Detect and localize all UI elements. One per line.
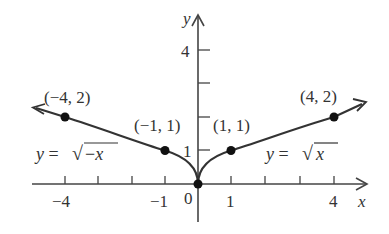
point-1-1 [227, 146, 236, 155]
eq-right-radicand: x [315, 144, 324, 164]
x-tick-label-4: 4 [329, 192, 338, 211]
eq-left-radicand: −x [85, 144, 103, 164]
eq-right-radical-icon: √ [302, 142, 313, 164]
eq-right-equals: = [274, 144, 289, 164]
point-neg1-1 [161, 146, 170, 155]
eq-left-y: y [34, 144, 44, 164]
svg-text:y =: y = [264, 144, 289, 164]
point-4-2 [330, 113, 339, 122]
y-axis-ticks [198, 50, 210, 150]
y-axis-label: y [181, 9, 191, 28]
point-label-neg4-2: (−4, 2) [44, 88, 90, 107]
point-label-neg1-1: (−1, 1) [134, 116, 180, 135]
right-curve-equation: y = √ x [264, 142, 338, 164]
y-tick-label-1: 1 [183, 142, 192, 161]
x-tick-label-neg1: −1 [150, 192, 168, 211]
x-tick-label-1: 1 [226, 192, 235, 211]
point-label-1-1: (1, 1) [213, 116, 250, 135]
left-curve-equation: y = √ −x [34, 142, 118, 164]
point-label-4-2: (4, 2) [300, 87, 337, 106]
y-axis [192, 15, 210, 222]
point-neg4-2 [61, 113, 70, 122]
y-tick-label-4: 4 [181, 42, 190, 61]
x-tick-label-0: 0 [184, 189, 193, 208]
x-tick-label-neg4: −4 [52, 192, 71, 211]
eq-right-y: y [264, 144, 274, 164]
eq-left-radical-icon: √ [72, 142, 83, 164]
sqrt-graph-figure: y x −4 −1 0 1 4 1 4 (−4, 2) (−1, 1) (1, … [0, 0, 389, 234]
x-axis-label: x [357, 192, 366, 211]
svg-text:y =: y = [34, 144, 59, 164]
point-origin [194, 180, 203, 189]
eq-left-equals: = [44, 144, 59, 164]
